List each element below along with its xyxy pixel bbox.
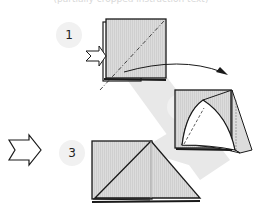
step-3-badge: 3 <box>59 140 85 166</box>
push-arrow-outline-icon <box>9 135 41 165</box>
step-1-square <box>100 19 166 90</box>
origami-diagram: 1 2 3 <box>0 0 262 218</box>
step-2-square <box>175 90 252 153</box>
step-number: 1 <box>65 28 73 42</box>
step-number: 3 <box>68 146 76 160</box>
step-1-badge: 1 <box>56 22 82 48</box>
